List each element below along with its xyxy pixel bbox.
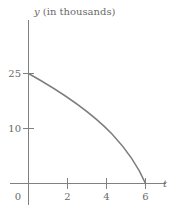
- chart-canvas: 25 10 0 2 4 6 t y (in thousands): [0, 0, 174, 213]
- y-tick-label-25: 25: [8, 68, 21, 79]
- x-tick-label-2: 2: [64, 191, 70, 202]
- data-curve-line: [29, 74, 146, 184]
- y-tick-label-10: 10: [8, 123, 21, 134]
- x-tick-label-6: 6: [142, 191, 148, 202]
- x-axis-title: t: [163, 178, 168, 189]
- chart-figure: 25 10 0 2 4 6 t y (in thousands): [0, 0, 174, 213]
- y-axis-title: y (in thousands): [33, 6, 116, 17]
- origin-label: 0: [15, 191, 21, 202]
- y-axis-title-unit: (in thousands): [40, 6, 116, 17]
- x-tick-label-4: 4: [103, 191, 109, 202]
